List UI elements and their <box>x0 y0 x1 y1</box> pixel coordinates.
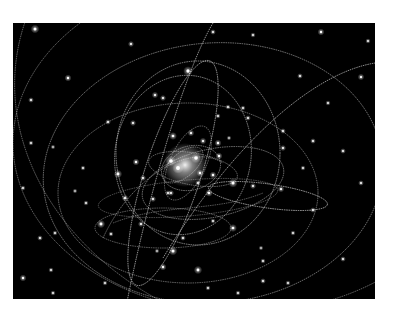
star <box>342 258 344 260</box>
orbit-ellipse <box>95 208 231 248</box>
orbit-arcs <box>103 23 375 299</box>
star <box>30 99 32 101</box>
star <box>302 167 304 169</box>
star <box>124 197 126 199</box>
star <box>170 192 172 194</box>
star <box>312 140 314 142</box>
star <box>172 250 175 253</box>
star <box>327 102 329 104</box>
star <box>282 130 284 132</box>
star <box>169 159 173 163</box>
star <box>132 122 134 124</box>
star <box>194 156 198 160</box>
star <box>212 220 214 222</box>
star <box>162 266 164 268</box>
star <box>142 177 144 179</box>
star <box>67 77 69 79</box>
star <box>117 173 120 176</box>
star <box>52 146 54 148</box>
star <box>282 147 284 149</box>
star <box>199 172 201 174</box>
star <box>22 187 24 189</box>
star <box>176 166 180 170</box>
star <box>232 227 235 230</box>
star <box>360 76 362 78</box>
star <box>154 94 156 96</box>
star <box>247 117 249 119</box>
star <box>100 223 103 226</box>
star <box>360 182 362 184</box>
star <box>152 198 154 200</box>
star <box>218 155 220 157</box>
orbit-arc <box>113 193 263 223</box>
star <box>190 132 192 134</box>
star <box>312 209 314 211</box>
star <box>287 282 289 284</box>
star <box>186 69 189 72</box>
star <box>197 182 199 184</box>
star <box>299 75 301 77</box>
star <box>104 282 106 284</box>
star <box>85 202 87 204</box>
star <box>140 223 142 225</box>
star <box>262 280 264 282</box>
star <box>231 181 234 184</box>
star <box>252 185 254 187</box>
orbit-visualization-image <box>13 23 375 299</box>
star <box>50 269 52 271</box>
star <box>292 232 294 234</box>
star <box>207 287 209 289</box>
star <box>130 43 132 45</box>
star <box>212 31 214 33</box>
star <box>280 188 282 190</box>
star <box>162 97 164 99</box>
star-orbits-svg <box>13 23 375 299</box>
star-field <box>19 25 370 296</box>
star <box>367 40 369 42</box>
orbit-ellipse <box>58 103 318 283</box>
star <box>197 269 200 272</box>
star <box>260 247 262 249</box>
star <box>182 237 184 239</box>
star <box>22 277 24 279</box>
star <box>54 232 56 234</box>
star <box>74 190 76 192</box>
star <box>82 167 84 169</box>
star <box>30 142 32 144</box>
star <box>212 174 214 176</box>
star <box>135 161 137 163</box>
star <box>156 250 158 252</box>
star <box>202 140 204 142</box>
star <box>110 233 112 235</box>
star <box>227 106 229 108</box>
star <box>217 115 219 117</box>
star <box>228 137 230 139</box>
star <box>52 292 54 294</box>
star <box>172 135 175 138</box>
star <box>34 28 37 31</box>
star <box>252 34 254 36</box>
star <box>262 260 264 262</box>
star <box>107 121 109 123</box>
star <box>242 107 244 109</box>
star <box>39 237 41 239</box>
star <box>208 192 211 195</box>
star <box>320 31 322 33</box>
star <box>217 142 219 144</box>
star <box>237 292 239 294</box>
star <box>342 150 344 152</box>
